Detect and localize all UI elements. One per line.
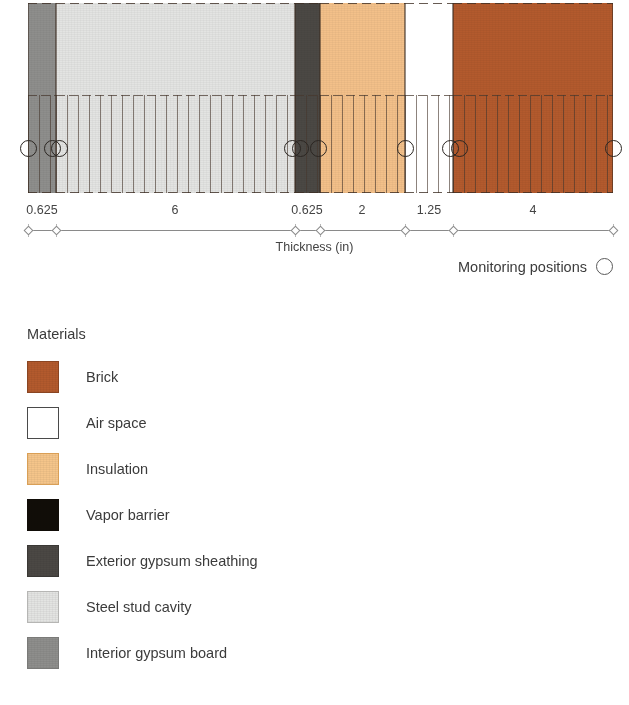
legend-rows: BrickAir spaceInsulationVapor barrierExt… [27,354,447,676]
wall-cross-section [0,0,629,200]
layer-dashtop [453,3,613,4]
legend-swatch-texture [28,638,58,668]
dimension-label: 0.625 [291,203,322,217]
axis-tick [399,224,412,237]
legend-label: Brick [86,369,118,385]
legend-swatch [27,361,59,393]
layer-hatch [453,95,613,193]
layer-boundary-line [320,3,321,193]
thickness-axis: Thickness (in) 0.62560.62521.254 [0,200,629,252]
legend-swatch [27,499,59,531]
legend-item: Vapor barrier [27,492,447,538]
axis-tick [22,224,35,237]
layer-dashbot [295,192,320,193]
wall-assembly-diagram: Thickness (in) 0.62560.62521.254 Monitor… [0,0,629,705]
monitoring-position-marker [310,140,327,157]
layer-hatch-top-edge [295,95,320,96]
layer-hatch-top-edge [405,95,453,96]
layer-dashbot [56,192,295,193]
wall-layer-exterior-gypsum-sheathing [295,3,320,193]
axis-title: Thickness (in) [0,240,629,254]
legend-swatch [27,453,59,485]
layer-dashtop [28,3,56,4]
legend-swatch-texture [28,546,58,576]
layer-boundary-line [295,3,296,193]
wall-layer-steel-stud-cavity [56,3,295,193]
legend-label: Interior gypsum board [86,645,227,661]
legend-swatch [27,407,59,439]
layer-hatch-top-edge [56,95,295,96]
layer-boundary-line [28,3,29,193]
axis-tick [607,224,620,237]
legend-swatch-fill [28,408,58,438]
legend-swatch-texture [28,500,58,530]
layer-dashtop [56,3,295,4]
layer-dashtop [320,3,405,4]
axis-tick-diamond-icon [608,226,618,236]
legend-title: Materials [27,326,447,342]
layer-hatch [320,95,405,193]
layer-hatch-top-edge [320,95,405,96]
layer-dashbot [28,192,56,193]
axis-tick-diamond-icon [448,226,458,236]
monitoring-position-marker [605,140,622,157]
materials-legend: Materials BrickAir spaceInsulationVapor … [27,326,447,676]
legend-swatch-texture [28,454,58,484]
monitoring-position-marker [397,140,414,157]
axis-tick-diamond-icon [23,226,33,236]
monitoring-positions-key: Monitoring positions [458,258,613,275]
layer-boundary-line [612,3,613,193]
layer-hatch [56,95,295,193]
legend-swatch [27,545,59,577]
layer-dashbot [453,192,613,193]
wall-layer-brick [453,3,613,193]
axis-tick-diamond-icon [400,226,410,236]
axis-tick [50,224,63,237]
legend-label: Air space [86,415,146,431]
monitoring-position-marker [292,140,309,157]
axis-tick-diamond-icon [315,226,325,236]
legend-label: Insulation [86,461,148,477]
axis-tick [447,224,460,237]
legend-label: Steel stud cavity [86,599,192,615]
wall-layer-interior-gypsum-board [28,3,56,193]
wall-layer-air-space [405,3,453,193]
monitoring-positions-label: Monitoring positions [458,259,587,275]
axis-tick [314,224,327,237]
legend-item: Air space [27,400,447,446]
layer-boundary-line [56,3,57,193]
legend-swatch [27,637,59,669]
monitoring-position-marker [20,140,37,157]
legend-label: Exterior gypsum sheathing [86,553,258,569]
axis-tick-diamond-icon [51,226,61,236]
layer-hatch-top-edge [28,95,56,96]
legend-swatch-texture [28,362,58,392]
legend-swatch-texture [28,592,58,622]
axis-tick-diamond-icon [290,226,300,236]
dimension-label: 4 [530,203,537,217]
wall-layer-insulation [320,3,405,193]
layer-dashtop [405,3,453,4]
legend-item: Insulation [27,446,447,492]
monitoring-position-marker [51,140,68,157]
layer-dashbot [405,192,453,193]
legend-item: Interior gypsum board [27,630,447,676]
layer-hatch-top-edge [453,95,613,96]
layer-dashbot [320,192,405,193]
layer-boundary-line [453,3,454,193]
axis-tick [289,224,302,237]
dimension-label: 1.25 [417,203,441,217]
dimension-label: 6 [172,203,179,217]
layer-boundary-line [405,3,406,193]
legend-item: Steel stud cavity [27,584,447,630]
legend-item: Brick [27,354,447,400]
monitoring-position-circle-icon [596,258,613,275]
dimension-label: 2 [359,203,366,217]
layer-dashtop [295,3,320,4]
legend-swatch [27,591,59,623]
legend-label: Vapor barrier [86,507,170,523]
legend-item: Exterior gypsum sheathing [27,538,447,584]
monitoring-position-marker [451,140,468,157]
dimension-label: 0.625 [26,203,57,217]
